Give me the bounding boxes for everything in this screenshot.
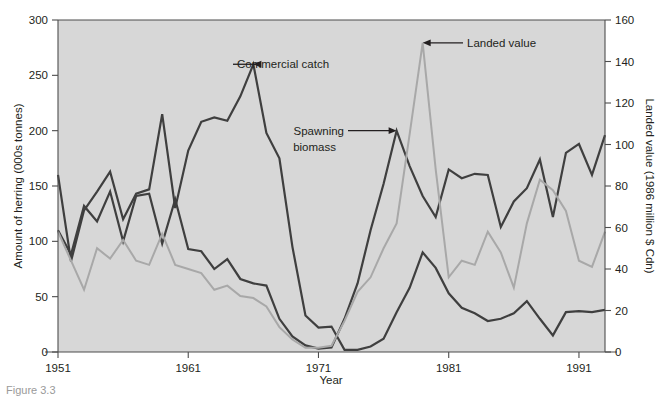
y2-tick-label-0: 0	[615, 346, 621, 358]
spawning-biomass-label-line1: Spawning	[293, 125, 344, 137]
x-tick-label-1981: 1981	[436, 362, 462, 374]
x-tick-label-1971: 1971	[306, 362, 332, 374]
herring-fishery-line-chart: 0501001502002503000204060801001201401601…	[0, 0, 661, 396]
y2-tick-label-140: 140	[615, 56, 634, 68]
commercial-catch-label: Commercial catch	[237, 58, 329, 70]
spawning-biomass-label-line2: biomass	[293, 141, 336, 153]
y2-axis-title: Landed value (1986 million $ Cdn)	[644, 98, 656, 273]
y2-tick-label-20: 20	[615, 305, 628, 317]
y-tick-label-250: 250	[29, 69, 48, 81]
y2-tick-label-100: 100	[615, 139, 634, 151]
y-tick-label-150: 150	[29, 180, 48, 192]
y2-tick-label-120: 120	[615, 97, 634, 109]
y2-tick-label-40: 40	[615, 263, 628, 275]
figure-container: 0501001502002503000204060801001201401601…	[0, 0, 661, 396]
y-axis-title: Amount of herring (000s tonnes)	[12, 103, 24, 268]
x-tick-label-1961: 1961	[175, 362, 201, 374]
y-tick-label-300: 300	[29, 14, 48, 26]
figure-caption: Figure 3.3	[6, 384, 56, 396]
y2-tick-label-80: 80	[615, 180, 628, 192]
y-tick-label-100: 100	[29, 235, 48, 247]
y-tick-label-200: 200	[29, 125, 48, 137]
x-tick-label-1951: 1951	[45, 362, 71, 374]
x-tick-label-1991: 1991	[566, 362, 592, 374]
y-tick-label-0: 0	[42, 346, 48, 358]
y-tick-label-50: 50	[35, 291, 48, 303]
x-axis-title: Year	[319, 374, 342, 386]
y2-tick-label-160: 160	[615, 14, 634, 26]
landed-value-label: Landed value	[467, 37, 536, 49]
plot-area-background	[58, 20, 605, 352]
y2-tick-label-60: 60	[615, 222, 628, 234]
annotation-commercial-catch: Commercial catch	[233, 58, 329, 70]
